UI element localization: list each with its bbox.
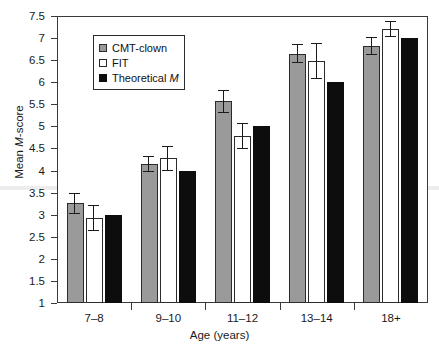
error-bar-stem bbox=[93, 205, 94, 231]
y-tick-mark bbox=[51, 148, 57, 149]
y-tick-label: 6.5 bbox=[29, 54, 45, 66]
error-bar-stem bbox=[74, 193, 75, 214]
bar-fit-18+ bbox=[382, 29, 399, 303]
y-tick-label: 7 bbox=[39, 32, 45, 44]
y-tick-mark bbox=[51, 193, 57, 194]
legend-item-fit: FIT bbox=[99, 55, 179, 70]
error-bar-cap-bottom bbox=[69, 213, 80, 214]
error-bar-cap-bottom bbox=[237, 148, 248, 149]
bar-chart-figure: 11.522.533.544.555.566.577.5 Mean M-scor… bbox=[0, 0, 439, 348]
y-tick-mark bbox=[51, 171, 57, 172]
error-bar-cap-bottom bbox=[385, 36, 396, 37]
y-tick-mark bbox=[51, 16, 57, 17]
legend-label-fit: FIT bbox=[112, 57, 129, 69]
error-bar-cap-top bbox=[218, 90, 229, 91]
error-bar-cap-bottom bbox=[88, 230, 99, 231]
bar-fit-1112 bbox=[234, 136, 251, 303]
y-tick-mark bbox=[51, 126, 57, 127]
legend-item-theoretical-m: Theoretical M bbox=[99, 70, 179, 85]
error-bar-cap-bottom bbox=[292, 62, 303, 63]
bar-theoretical-m-18+ bbox=[401, 38, 418, 303]
error-bar-cap-top bbox=[88, 205, 99, 206]
y-tick-label: 5 bbox=[39, 120, 45, 132]
error-bar bbox=[67, 193, 84, 214]
y-tick-label: 1 bbox=[39, 297, 45, 309]
error-bar bbox=[234, 123, 251, 149]
error-bar-cap-bottom bbox=[162, 170, 173, 171]
y-tick-label: 3 bbox=[39, 209, 45, 221]
bar-cmt-clown-1314 bbox=[289, 54, 306, 303]
error-bar-stem bbox=[148, 156, 149, 172]
legend-swatch-fit bbox=[99, 59, 107, 67]
y-tick-label: 6 bbox=[39, 76, 45, 88]
bar-fit-910 bbox=[160, 158, 177, 303]
x-axis-title: Age (years) bbox=[0, 329, 439, 341]
error-bar-cap-top bbox=[366, 37, 377, 38]
legend-swatch-cmt-clown bbox=[99, 44, 107, 52]
bar-cmt-clown-1112 bbox=[215, 101, 232, 303]
y-tick-label: 3.5 bbox=[29, 187, 45, 199]
x-tick-mark bbox=[131, 303, 132, 310]
y-axis-title-suffix: -score bbox=[13, 105, 25, 137]
error-bar-cap-top bbox=[311, 43, 322, 44]
y-tick-mark bbox=[51, 215, 57, 216]
y-tick-mark bbox=[51, 82, 57, 83]
error-bar-cap-top bbox=[69, 193, 80, 194]
error-bar-stem bbox=[390, 21, 391, 37]
error-bar bbox=[382, 21, 399, 37]
y-tick-mark bbox=[51, 259, 57, 260]
y-tick-mark bbox=[51, 237, 57, 238]
y-tick-label: 2.5 bbox=[29, 231, 45, 243]
legend-item-cmt-clown: CMT-clown bbox=[99, 40, 179, 55]
x-tick-mark bbox=[280, 303, 281, 310]
y-tick-label: 2 bbox=[39, 253, 45, 265]
error-bar-stem bbox=[297, 44, 298, 63]
x-tick-mark bbox=[354, 303, 355, 310]
error-bar-cap-top bbox=[385, 21, 396, 22]
y-tick-mark bbox=[51, 60, 57, 61]
y-tick-label: 4 bbox=[39, 165, 45, 177]
error-bar-cap-bottom bbox=[143, 171, 154, 172]
error-bar-cap-top bbox=[162, 146, 173, 147]
error-bar-cap-top bbox=[292, 44, 303, 45]
y-axis: 11.522.533.544.555.566.577.5 bbox=[0, 0, 57, 348]
y-axis-title-prefix: Mean bbox=[13, 147, 25, 179]
error-bar-cap-bottom bbox=[218, 112, 229, 113]
error-bar bbox=[160, 146, 177, 171]
error-bar-stem bbox=[316, 43, 317, 78]
x-tick-label: 7–8 bbox=[85, 312, 104, 324]
bar-theoretical-m-1112 bbox=[253, 126, 270, 303]
legend-label-theoretical-m: Theoretical M bbox=[112, 72, 179, 84]
error-bar-cap-top bbox=[237, 123, 248, 124]
y-tick-mark bbox=[51, 104, 57, 105]
y-tick-mark bbox=[51, 38, 57, 39]
error-bar bbox=[363, 37, 380, 55]
x-tick-label: 13–14 bbox=[301, 312, 333, 324]
error-bar-stem bbox=[371, 37, 372, 55]
error-bar-stem bbox=[167, 146, 168, 171]
bar-theoretical-m-1314 bbox=[327, 82, 344, 303]
error-bar bbox=[86, 205, 103, 231]
bar-cmt-clown-18+ bbox=[363, 46, 380, 303]
bar-theoretical-m-78 bbox=[105, 215, 122, 303]
legend-swatch-theoretical-m bbox=[99, 74, 107, 82]
y-axis-title-italic: M bbox=[13, 137, 25, 147]
chart-legend: CMT-clown FIT Theoretical M bbox=[93, 35, 185, 90]
y-tick-label: 5.5 bbox=[29, 98, 45, 110]
y-tick-mark bbox=[51, 303, 57, 304]
bar-cmt-clown-78 bbox=[67, 203, 84, 303]
error-bar-stem bbox=[242, 123, 243, 149]
x-tick-label: 9–10 bbox=[156, 312, 182, 324]
error-bar bbox=[308, 43, 325, 78]
x-tick-mark bbox=[205, 303, 206, 310]
y-tick-label: 7.5 bbox=[29, 10, 45, 22]
y-tick-mark bbox=[51, 281, 57, 282]
error-bar bbox=[289, 44, 306, 63]
bar-theoretical-m-910 bbox=[179, 171, 196, 303]
error-bar-cap-bottom bbox=[311, 78, 322, 79]
legend-label-cmt-clown: CMT-clown bbox=[112, 42, 167, 54]
y-tick-label: 4.5 bbox=[29, 142, 45, 154]
x-tick-label: 11–12 bbox=[227, 312, 258, 324]
error-bar bbox=[141, 156, 158, 172]
y-tick-label: 1.5 bbox=[29, 275, 45, 287]
